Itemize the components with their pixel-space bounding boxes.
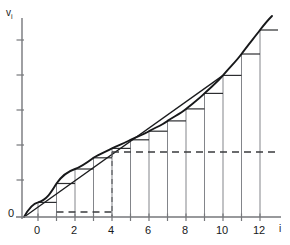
x-tick-label-0: 0 xyxy=(34,225,40,236)
x-tick-label-4: 4 xyxy=(108,225,114,236)
x-tick-label-12: 12 xyxy=(253,225,265,236)
y-axis-label: vi xyxy=(6,8,13,20)
vi-curve xyxy=(24,16,272,217)
x-tick-label-8: 8 xyxy=(182,225,188,236)
plot-area xyxy=(0,0,290,245)
origin-label: 0 xyxy=(8,208,14,219)
chart-figure: vi 0 0 2 4 6 8 10 12 i xyxy=(0,0,290,245)
x-tick-label-10: 10 xyxy=(216,225,228,236)
x-axis-label: i xyxy=(279,224,281,234)
x-tick-label-6: 6 xyxy=(145,225,151,236)
x-tick-label-2: 2 xyxy=(71,225,77,236)
y-axis-ticks xyxy=(17,40,25,180)
step-bars-group xyxy=(38,30,260,217)
secant-chord-line xyxy=(26,75,224,216)
